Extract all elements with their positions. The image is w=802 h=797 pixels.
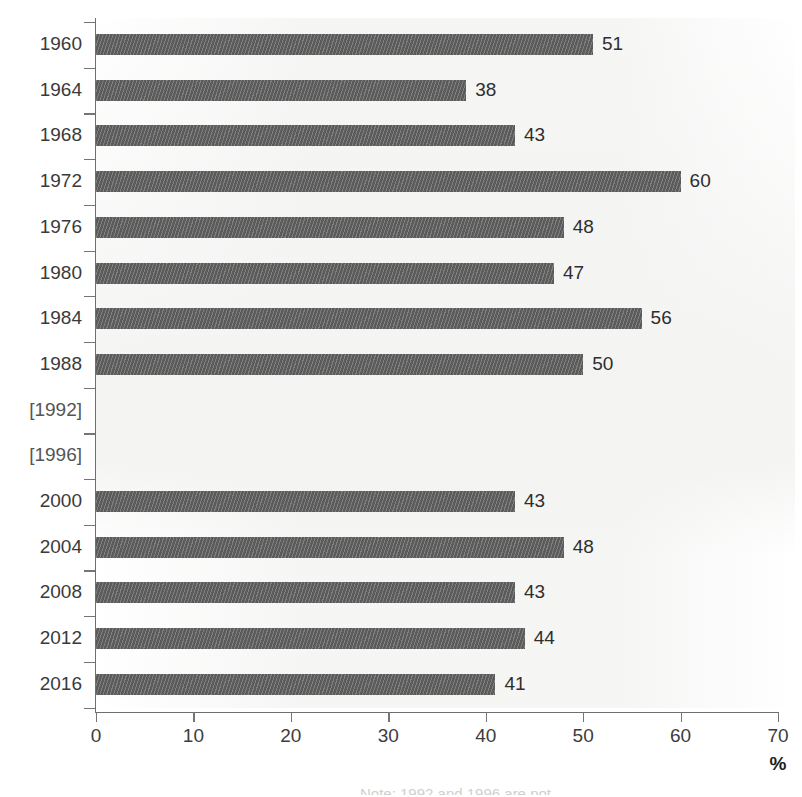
bar-row: 200043 — [96, 479, 778, 525]
x-axis-tick — [96, 712, 97, 722]
x-axis-tick-label: 50 — [573, 725, 594, 747]
bar-row: 198047 — [96, 251, 778, 297]
y-axis-tick — [84, 570, 95, 571]
bar-row: 196438 — [96, 68, 778, 114]
bar-row: 200843 — [96, 570, 778, 616]
x-axis-tick — [291, 712, 292, 722]
bar-value-label: 43 — [524, 124, 545, 145]
y-axis-tick — [84, 68, 95, 69]
bar-value-label: 50 — [592, 353, 613, 374]
x-axis-tick — [486, 712, 487, 722]
x-axis-tick — [193, 712, 194, 722]
bar — [96, 125, 515, 146]
bar — [96, 674, 495, 695]
bar-value-label: 44 — [534, 627, 555, 648]
bar-row: 198850 — [96, 342, 778, 388]
bar-value-label: 60 — [690, 170, 711, 191]
y-axis-tick — [84, 205, 95, 206]
bar — [96, 582, 515, 603]
x-axis-tick-label: 20 — [280, 725, 301, 747]
bar-value-label: 41 — [504, 673, 525, 694]
x-axis-tick-label: 10 — [183, 725, 204, 747]
category-label: 1988 — [0, 353, 82, 374]
bar-row: [1996] — [96, 433, 778, 479]
footnote-cropped: Note: 1992 and 1996 are not — [360, 786, 790, 795]
bar-row: 196843 — [96, 113, 778, 159]
category-label: 2000 — [0, 490, 82, 511]
category-label: 1960 — [0, 33, 82, 54]
x-axis-tick — [583, 712, 584, 722]
bar-row: [1992] — [96, 388, 778, 434]
x-axis-tick-label: 0 — [91, 725, 102, 747]
y-axis-tick — [84, 159, 95, 160]
bar — [96, 80, 466, 101]
bar — [96, 34, 593, 55]
category-label: 2008 — [0, 581, 82, 602]
bar-value-label: 38 — [475, 79, 496, 100]
x-axis-tick-label: 70 — [767, 725, 788, 747]
y-axis-tick — [84, 388, 95, 389]
y-axis-tick — [84, 251, 95, 252]
y-axis-tick — [84, 296, 95, 297]
category-label: 2004 — [0, 536, 82, 557]
bar-value-label: 48 — [573, 536, 594, 557]
category-label: 2012 — [0, 627, 82, 648]
bar-row: 197260 — [96, 159, 778, 205]
bar-row: 200448 — [96, 525, 778, 571]
bar-row: 198456 — [96, 296, 778, 342]
plot-area: 1960511964381968431972601976481980471984… — [96, 22, 778, 708]
bar — [96, 491, 515, 512]
y-axis-tick — [84, 22, 95, 23]
bar-chart-figure: 1960511964381968431972601976481980471984… — [0, 0, 802, 797]
bar-row: 196051 — [96, 22, 778, 68]
y-axis-tick — [84, 113, 95, 114]
x-axis-tick-label: 40 — [475, 725, 496, 747]
category-label: 1972 — [0, 170, 82, 191]
y-axis-tick — [84, 662, 95, 663]
bar-row: 197648 — [96, 205, 778, 251]
category-label: 1976 — [0, 216, 82, 237]
bar — [96, 354, 583, 375]
x-axis-unit-label: % — [770, 753, 787, 775]
bar-value-label: 51 — [602, 33, 623, 54]
category-label: [1996] — [0, 444, 82, 465]
y-axis-tick — [84, 433, 95, 434]
x-axis-tick — [778, 712, 779, 722]
category-label: 1964 — [0, 79, 82, 100]
bar-value-label: 43 — [524, 490, 545, 511]
y-axis-tick — [84, 342, 95, 343]
x-axis-line — [95, 712, 779, 713]
bar-value-label: 56 — [651, 307, 672, 328]
bar — [96, 171, 681, 192]
bar-value-label: 48 — [573, 216, 594, 237]
category-label: 1984 — [0, 307, 82, 328]
category-label: [1992] — [0, 399, 82, 420]
category-label: 2016 — [0, 673, 82, 694]
bar — [96, 263, 554, 284]
x-axis-tick — [681, 712, 682, 722]
bar — [96, 537, 564, 558]
bar — [96, 217, 564, 238]
x-axis-tick — [388, 712, 389, 722]
bar-row: 201244 — [96, 616, 778, 662]
bar — [96, 628, 525, 649]
bar-value-label: 43 — [524, 581, 545, 602]
x-axis-tick-label: 30 — [378, 725, 399, 747]
y-axis-tick — [84, 479, 95, 480]
bar-row: 201641 — [96, 662, 778, 708]
x-axis-tick-label: 60 — [670, 725, 691, 747]
bar-value-label: 47 — [563, 262, 584, 283]
y-axis-tick — [84, 525, 95, 526]
y-axis-tick — [84, 708, 95, 709]
category-label: 1980 — [0, 262, 82, 283]
category-label: 1968 — [0, 124, 82, 145]
bar — [96, 308, 642, 329]
y-axis-tick — [84, 616, 95, 617]
